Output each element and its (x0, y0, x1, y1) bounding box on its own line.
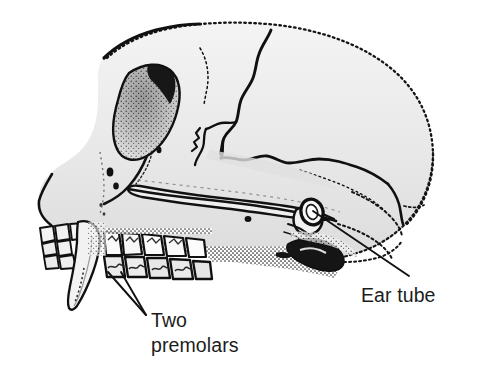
skull-figure: Ear tube Twopremolars (0, 0, 477, 388)
foramen-dot-6 (103, 212, 106, 216)
tooth-m2 (164, 236, 186, 256)
tooth-p2 (122, 233, 142, 255)
leader-premolar-a (108, 272, 146, 315)
tooth-m3 (186, 238, 206, 257)
label-two-premolars-line2: premolars (151, 334, 239, 356)
foramen-dot-2 (107, 167, 114, 176)
label-ear-tube: Ear tube (361, 283, 436, 308)
tooth-m1 (142, 234, 164, 255)
leader-premolar-b (121, 272, 146, 315)
lower-molar-3 (193, 261, 212, 279)
foramen-dot-3 (113, 182, 119, 189)
label-two-premolars: Twopremolars (151, 308, 239, 358)
tooth-p1 (104, 232, 122, 255)
lower-cheek-teeth (104, 256, 212, 279)
foramen-dot-1 (157, 147, 162, 153)
label-two-premolars-line1: Two (151, 309, 187, 331)
foramen-dot-4 (245, 216, 252, 222)
